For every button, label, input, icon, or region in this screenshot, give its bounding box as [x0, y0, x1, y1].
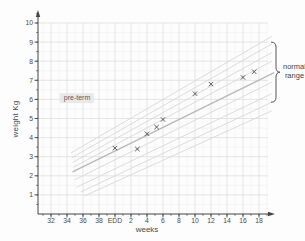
- x-axis-arrow-icon: [268, 212, 275, 216]
- svg-text:EDD: EDD: [108, 217, 122, 224]
- growth-chart-figure: 32343638EDD2468101214161812345678910 wei…: [0, 0, 305, 241]
- svg-text:6: 6: [29, 96, 33, 103]
- svg-text:6: 6: [161, 217, 165, 224]
- x-axis-label: weeks: [136, 225, 159, 234]
- svg-text:10: 10: [25, 19, 33, 26]
- svg-text:4: 4: [29, 134, 33, 141]
- svg-text:5: 5: [29, 115, 33, 122]
- svg-text:8: 8: [29, 58, 33, 65]
- svg-text:4: 4: [145, 217, 149, 224]
- svg-text:12: 12: [207, 217, 215, 224]
- svg-text:2: 2: [129, 217, 133, 224]
- svg-text:14: 14: [223, 217, 231, 224]
- svg-text:36: 36: [79, 217, 87, 224]
- svg-text:3: 3: [29, 153, 33, 160]
- normal-range-annotation: normal range: [283, 62, 305, 80]
- svg-text:16: 16: [239, 217, 247, 224]
- normal-range-label-line1: normal: [283, 62, 305, 71]
- svg-text:2: 2: [29, 172, 33, 179]
- normal-range-brace: [271, 42, 280, 102]
- svg-text:38: 38: [95, 217, 103, 224]
- preterm-annotation: pre-term: [60, 93, 94, 103]
- y-axis-label: weight Kg: [11, 101, 20, 138]
- svg-text:9: 9: [29, 39, 33, 46]
- svg-text:7: 7: [29, 77, 33, 84]
- svg-text:18: 18: [255, 217, 263, 224]
- svg-text:10: 10: [191, 217, 199, 224]
- svg-text:34: 34: [63, 217, 71, 224]
- centile-band: [71, 36, 274, 195]
- svg-text:8: 8: [177, 217, 181, 224]
- svg-text:32: 32: [47, 217, 55, 224]
- x-axis-ticks: 32343638EDD24681012141618: [43, 214, 267, 224]
- chart-canvas: 32343638EDD2468101214161812345678910: [0, 0, 305, 241]
- y-axis-ticks: 12345678910: [25, 13, 38, 204]
- svg-text:1: 1: [29, 191, 33, 198]
- normal-range-label-line2: range: [283, 71, 305, 80]
